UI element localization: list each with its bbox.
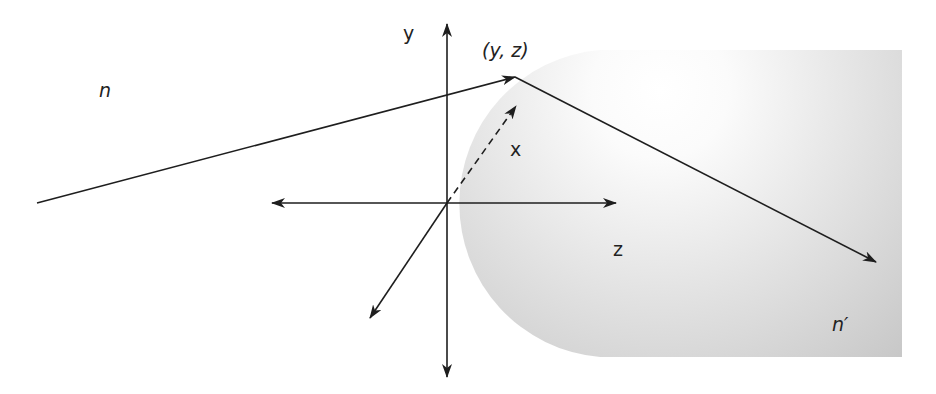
refraction-diagram: n n′ y x z (y, z)	[0, 0, 936, 394]
label-y-axis: y	[403, 22, 414, 44]
label-n: n	[99, 79, 111, 101]
label-x-axis: x	[510, 138, 521, 160]
x-axis-back	[370, 203, 447, 318]
label-z-axis: z	[613, 238, 623, 260]
label-n-prime: n′	[832, 313, 849, 335]
label-point-yz: (y, z)	[482, 39, 529, 61]
